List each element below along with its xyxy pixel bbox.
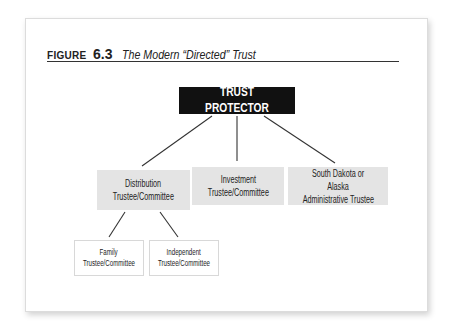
administrative-line2: Administrative Trustee [302,193,373,206]
administrative-label: South Dakota or AlaskaAdministrative Tru… [296,167,381,206]
independent-line1: Independent [167,247,201,258]
administrative-trustee-node: South Dakota or AlaskaAdministrative Tru… [288,167,388,205]
distribution-label: DistributionTrustee/Committee [108,177,180,203]
independent-trustee-node: IndependentTrustee/Committee [149,240,219,276]
independent-label: IndependentTrustee/Committee [153,247,214,269]
connector-lines [0,0,450,330]
trust-protector-node: TRUST PROTECTOR [179,87,295,114]
investment-label: InvestmentTrustee/Committee [202,173,274,199]
investment-line2: Trustee/Committee [207,186,268,199]
administrative-line1: South Dakota or Alaska [302,167,374,193]
family-line1: Family [100,247,118,258]
investment-line1: Investment [220,173,255,186]
family-label: FamilyTrustee/Committee [78,247,139,269]
independent-line2: Trustee/Committee [158,258,210,269]
trust-protector-label: TRUST PROTECTOR [188,85,287,116]
family-trustee-node: FamilyTrustee/Committee [74,240,144,276]
distribution-trustee-node: DistributionTrustee/Committee [97,170,190,210]
distribution-line2: Trustee/Committee [113,190,174,203]
distribution-line1: Distribution [125,177,161,190]
investment-trustee-node: InvestmentTrustee/Committee [192,167,284,205]
family-line2: Trustee/Committee [83,258,135,269]
